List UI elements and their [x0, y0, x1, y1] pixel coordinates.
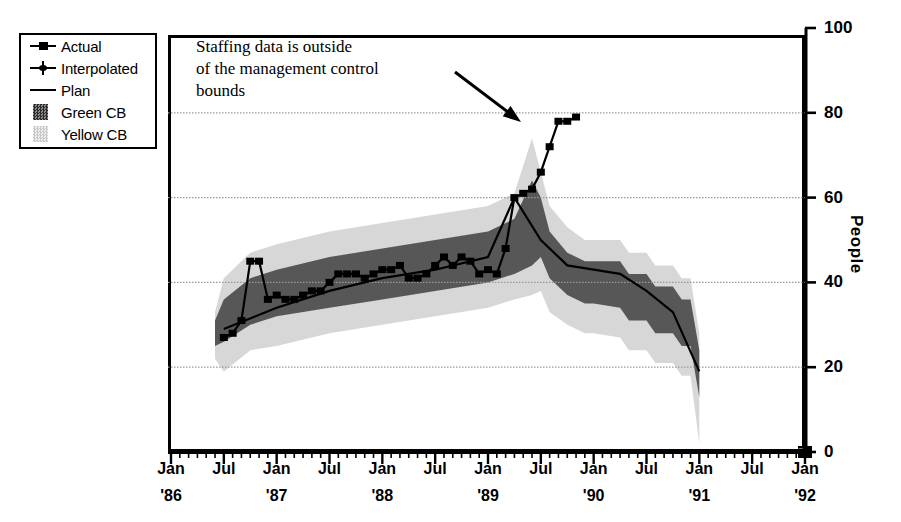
data-point-marker: [572, 114, 580, 121]
data-point-marker: [220, 334, 228, 341]
data-point-marker: [414, 275, 422, 282]
annotation-line-1: Staffing data is outside: [196, 36, 476, 58]
data-point-marker: [458, 253, 466, 260]
legend-label-actual: Actual: [61, 39, 102, 54]
data-point-marker: [466, 258, 474, 265]
data-point-marker: [317, 287, 325, 294]
data-point-marker: [519, 190, 527, 197]
legend-item-actual: Actual: [21, 35, 155, 57]
data-point-marker: [246, 258, 254, 265]
x-axis-line: [168, 449, 808, 454]
data-point-marker: [449, 262, 457, 269]
data-point-marker: [281, 296, 289, 303]
data-point-marker: [431, 262, 439, 269]
data-point-marker: [361, 275, 369, 282]
data-point-marker: [352, 270, 360, 277]
legend-item-yellow-cb: Yellow CB: [21, 123, 155, 145]
data-point-marker: [370, 270, 378, 277]
data-point-marker: [255, 258, 263, 265]
y-axis-ticks: [805, 28, 816, 452]
data-point-marker: [502, 245, 510, 252]
legend-item-interpolated: Interpolated: [21, 57, 155, 79]
data-point-marker: [546, 143, 554, 150]
data-point-marker: [290, 296, 298, 303]
data-point-marker: [484, 266, 492, 273]
legend-label-interpolated: Interpolated: [61, 61, 138, 76]
yellow-cb-swatch-icon: [30, 125, 56, 143]
legend-item-plan: Plan: [21, 79, 155, 101]
data-point-marker: [273, 292, 281, 299]
data-point-marker: [528, 186, 536, 193]
data-point-marker: [229, 330, 237, 337]
data-point-marker: [440, 253, 448, 260]
data-point-marker: [396, 262, 404, 269]
annotation-line-2: of the management control: [196, 58, 476, 80]
interpolated-marker-icon: [30, 59, 56, 77]
data-point-marker: [493, 270, 501, 277]
plan-line-icon: [30, 81, 56, 99]
data-point-marker: [510, 194, 518, 201]
data-point-marker: [343, 270, 351, 277]
legend-label-plan: Plan: [61, 83, 90, 98]
legend-label-yellow-cb: Yellow CB: [61, 127, 127, 142]
data-point-marker: [563, 118, 571, 125]
actual-marker-icon: [30, 37, 56, 55]
data-point-marker: [308, 287, 316, 294]
data-point-marker: [299, 292, 307, 299]
data-point-marker: [554, 118, 562, 125]
data-point-marker: [378, 266, 386, 273]
data-point-marker: [537, 169, 545, 176]
data-point-marker: [334, 270, 342, 277]
annotation-line-3: bounds: [196, 80, 476, 102]
green-cb-swatch-icon: [30, 103, 56, 121]
chart-root: Actual Interpolated Plan Green CB Yellow…: [0, 0, 901, 522]
data-point-marker: [326, 279, 334, 286]
legend-label-green-cb: Green CB: [61, 105, 126, 120]
annotation-text: Staffing data is outside of the manageme…: [196, 36, 476, 102]
data-point-marker: [387, 266, 395, 273]
chart-legend: Actual Interpolated Plan Green CB Yellow…: [19, 33, 157, 149]
data-point-marker: [475, 270, 483, 277]
data-point-marker: [264, 296, 272, 303]
data-point-marker: [237, 317, 245, 324]
data-point-marker: [422, 270, 430, 277]
legend-item-green-cb: Green CB: [21, 101, 155, 123]
data-point-marker: [405, 275, 413, 282]
